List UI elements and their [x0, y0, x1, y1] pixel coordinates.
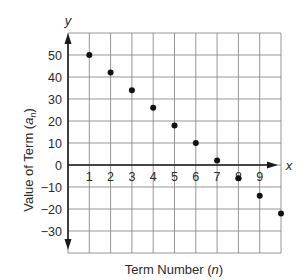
y-tick-label: 10	[48, 137, 62, 151]
x-tick-label: 6	[192, 170, 199, 184]
y-tick-label: 0	[55, 159, 62, 173]
grid	[68, 33, 281, 253]
data-point	[214, 158, 220, 164]
y-tick-label: 50	[48, 49, 62, 63]
y-axis-letter: y	[64, 13, 73, 28]
y-axis-up-arrow-icon	[65, 33, 72, 44]
y-axis-title-var: a	[21, 118, 36, 125]
x-axis-title-text: Term Number	[125, 262, 204, 277]
x-axis-letter: x	[285, 158, 293, 173]
y-tick-label: 40	[48, 71, 62, 85]
y-tick-label: 20	[48, 115, 62, 129]
x-axis-title: Term Number (n)	[125, 262, 223, 277]
y-tick-label: 30	[48, 93, 62, 107]
data-point	[193, 140, 199, 146]
x-tick-label: 2	[107, 170, 114, 184]
y-tick-label: −30	[41, 225, 62, 239]
scatter-chart: 12345678950403020100−10−20−30 y x Term N…	[0, 0, 308, 280]
x-tick-label: 1	[86, 170, 93, 184]
y-axis-down-arrow-icon	[65, 239, 72, 250]
data-point	[278, 210, 284, 216]
x-tick-label: 7	[214, 170, 221, 184]
data-point	[150, 105, 156, 111]
y-tick-label: −20	[41, 203, 62, 217]
axes	[65, 33, 279, 250]
x-tick-label: 5	[171, 170, 178, 184]
x-axis-right-arrow-icon	[267, 162, 278, 169]
data-point	[235, 175, 241, 181]
y-tick-label: −10	[41, 181, 62, 195]
x-tick-label: 9	[256, 170, 263, 184]
y-axis-title-paren-close: )	[21, 108, 36, 112]
data-point	[129, 87, 135, 93]
x-tick-label: 3	[128, 170, 135, 184]
data-point	[257, 193, 263, 199]
y-axis-title-text: Value of Term	[21, 133, 36, 212]
x-tick-label: 4	[150, 170, 157, 184]
x-axis-title-var: n	[212, 262, 219, 277]
x-axis-title-paren-close: )	[219, 262, 223, 277]
y-axis-title: Value of Term (an)	[21, 108, 38, 212]
data-point	[86, 52, 92, 58]
data-point	[108, 70, 114, 76]
data-point	[172, 122, 178, 128]
